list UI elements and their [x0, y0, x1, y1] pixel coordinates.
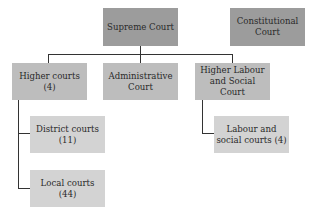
- node-label: Higher Labour and Social Court: [197, 65, 268, 98]
- node-local-courts: Local courts (44): [30, 170, 105, 207]
- node-higher-courts: Higher courts (4): [12, 63, 87, 100]
- node-constitutional-court: Constitutional Court: [230, 8, 305, 46]
- node-administrative-court: Administrative Court: [103, 63, 178, 100]
- node-label: Administrative Court: [105, 71, 176, 93]
- connector-higher-drop: [48, 54, 49, 63]
- connector-local: [18, 188, 30, 189]
- connector-higher-vertical: [18, 100, 19, 188]
- connector-district: [18, 133, 30, 134]
- connector-labour: [202, 133, 214, 134]
- node-label: Local courts (44): [32, 178, 103, 200]
- connector-labour-higher-drop: [232, 54, 233, 63]
- node-district-courts: District courts (11): [30, 116, 105, 153]
- connector-supreme-down: [140, 46, 141, 54]
- node-label: Labour and social courts (4): [216, 124, 287, 146]
- connector-labour-vertical: [202, 100, 203, 134]
- connector-admin-drop: [140, 54, 141, 63]
- node-higher-labour-court: Higher Labour and Social Court: [195, 63, 270, 100]
- node-label: District courts (11): [32, 124, 103, 146]
- node-supreme-court: Supreme Court: [103, 8, 178, 46]
- node-label: Higher courts (4): [14, 71, 85, 93]
- node-label: Constitutional Court: [232, 16, 303, 38]
- node-labour-social-courts: Labour and social courts (4): [214, 116, 289, 153]
- node-label: Supreme Court: [107, 22, 174, 33]
